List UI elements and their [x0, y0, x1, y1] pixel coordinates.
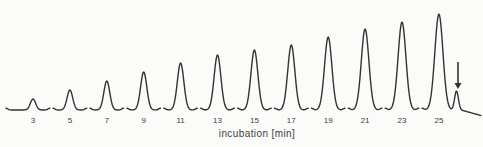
trace-segment-19 [311, 37, 345, 110]
x-tick-label-5: 5 [68, 116, 73, 125]
x-tick-label-25: 25 [434, 116, 443, 125]
trace-segment-7 [90, 81, 124, 110]
chromatogram-chart: 35791113151719212325 [0, 0, 483, 147]
trace-segment-25 [422, 14, 481, 116]
x-axis-label: incubation [min] [219, 128, 295, 139]
down-arrow-head-icon [455, 83, 462, 89]
trace-segment-11 [164, 63, 198, 110]
trace-segment-5 [53, 90, 87, 110]
trace-segment-9 [127, 72, 161, 110]
x-tick-label-3: 3 [31, 116, 36, 125]
x-tick-label-19: 19 [324, 116, 333, 125]
x-tick-label-11: 11 [176, 116, 185, 125]
x-tick-label-9: 9 [141, 116, 146, 125]
trace-segment-15 [238, 50, 272, 110]
x-tick-label-7: 7 [105, 116, 110, 125]
x-tick-label-15: 15 [250, 116, 259, 125]
x-tick-label-21: 21 [361, 116, 370, 125]
trace-segment-23 [385, 22, 419, 110]
trace-segment-13 [201, 55, 235, 110]
x-tick-label-17: 17 [287, 116, 296, 125]
trace-segment-3 [6, 99, 50, 110]
x-tick-label-13: 13 [213, 116, 222, 125]
trace-segment-17 [275, 45, 309, 110]
x-tick-label-23: 23 [398, 116, 407, 125]
trace-segment-21 [348, 29, 382, 110]
chromatogram-figure: 35791113151719212325 incubation [min] [0, 0, 483, 147]
